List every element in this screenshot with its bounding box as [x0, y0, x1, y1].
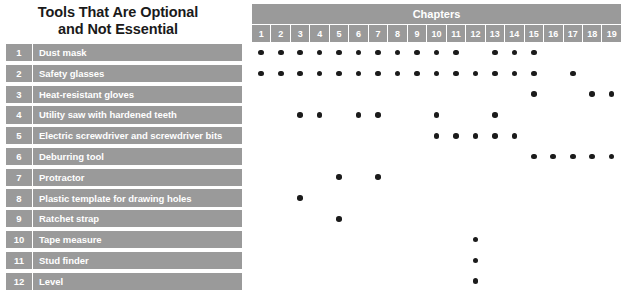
- dot-matrix-cell[interactable]: [505, 148, 523, 165]
- dot-matrix-cell[interactable]: [583, 273, 601, 290]
- dot-matrix-cell[interactable]: [330, 65, 348, 82]
- dot-matrix-cell[interactable]: [388, 44, 406, 61]
- dot-matrix-cell[interactable]: [271, 252, 289, 269]
- tool-row[interactable]: 3Heat-resistant gloves: [6, 86, 242, 103]
- dot-matrix-cell[interactable]: [369, 210, 387, 227]
- chapter-header-cell[interactable]: 12: [466, 25, 484, 42]
- dot-matrix-cell[interactable]: [388, 169, 406, 186]
- chapter-header-cell[interactable]: 14: [505, 25, 523, 42]
- dot-matrix-cell[interactable]: [349, 86, 367, 103]
- dot-matrix-cell[interactable]: [602, 169, 620, 186]
- tool-row[interactable]: 4Utility saw with hardened teeth: [6, 106, 242, 123]
- dot-matrix-cell[interactable]: [427, 231, 445, 248]
- dot-matrix-cell[interactable]: [486, 210, 504, 227]
- dot-matrix-cell[interactable]: [447, 106, 465, 123]
- tool-row[interactable]: 9Ratchet strap: [6, 210, 242, 227]
- dot-matrix-cell[interactable]: [408, 231, 426, 248]
- chapter-header-cell[interactable]: 11: [447, 25, 465, 42]
- dot-matrix-cell[interactable]: [544, 44, 562, 61]
- dot-matrix-cell[interactable]: [486, 86, 504, 103]
- dot-matrix-cell[interactable]: [388, 86, 406, 103]
- dot-matrix-cell[interactable]: [505, 231, 523, 248]
- dot-matrix-cell[interactable]: [447, 252, 465, 269]
- dot-matrix-cell[interactable]: [291, 86, 309, 103]
- dot-matrix-cell[interactable]: [466, 44, 484, 61]
- dot-matrix-cell[interactable]: [388, 148, 406, 165]
- dot-matrix-cell[interactable]: [486, 106, 504, 123]
- dot-matrix-cell[interactable]: [252, 189, 270, 206]
- dot-matrix-cell[interactable]: [369, 189, 387, 206]
- tool-row[interactable]: 2Safety glasses: [6, 65, 242, 82]
- dot-matrix-cell[interactable]: [505, 189, 523, 206]
- dot-matrix-cell[interactable]: [330, 127, 348, 144]
- dot-matrix-cell[interactable]: [271, 148, 289, 165]
- dot-matrix-cell[interactable]: [602, 273, 620, 290]
- dot-matrix-cell[interactable]: [252, 210, 270, 227]
- dot-matrix-cell[interactable]: [447, 86, 465, 103]
- dot-matrix-cell[interactable]: [564, 44, 582, 61]
- dot-matrix-cell[interactable]: [447, 65, 465, 82]
- dot-matrix-cell[interactable]: [447, 231, 465, 248]
- dot-matrix-cell[interactable]: [310, 44, 328, 61]
- dot-matrix-cell[interactable]: [330, 189, 348, 206]
- dot-matrix-cell[interactable]: [447, 148, 465, 165]
- dot-matrix-cell[interactable]: [447, 127, 465, 144]
- dot-matrix-cell[interactable]: [369, 44, 387, 61]
- dot-matrix-cell[interactable]: [466, 189, 484, 206]
- dot-matrix-cell[interactable]: [544, 86, 562, 103]
- dot-matrix-cell[interactable]: [408, 148, 426, 165]
- dot-matrix-cell[interactable]: [466, 65, 484, 82]
- dot-matrix-cell[interactable]: [330, 210, 348, 227]
- dot-matrix-cell[interactable]: [525, 44, 543, 61]
- dot-matrix-cell[interactable]: [252, 65, 270, 82]
- chapter-header-cell[interactable]: 13: [486, 25, 504, 42]
- dot-matrix-cell[interactable]: [252, 148, 270, 165]
- dot-matrix-cell[interactable]: [564, 127, 582, 144]
- dot-matrix-cell[interactable]: [349, 273, 367, 290]
- dot-matrix-cell[interactable]: [602, 86, 620, 103]
- dot-matrix-cell[interactable]: [486, 273, 504, 290]
- dot-matrix-cell[interactable]: [291, 169, 309, 186]
- dot-matrix-cell[interactable]: [466, 86, 484, 103]
- dot-matrix-cell[interactable]: [349, 210, 367, 227]
- dot-matrix-cell[interactable]: [427, 127, 445, 144]
- dot-matrix-cell[interactable]: [505, 169, 523, 186]
- dot-matrix-cell[interactable]: [408, 273, 426, 290]
- dot-matrix-cell[interactable]: [408, 65, 426, 82]
- dot-matrix-cell[interactable]: [310, 231, 328, 248]
- dot-matrix-cell[interactable]: [525, 210, 543, 227]
- dot-matrix-cell[interactable]: [544, 106, 562, 123]
- dot-matrix-cell[interactable]: [291, 127, 309, 144]
- dot-matrix-cell[interactable]: [388, 210, 406, 227]
- chapter-header-cell[interactable]: 6: [349, 25, 367, 42]
- dot-matrix-cell[interactable]: [486, 44, 504, 61]
- dot-matrix-cell[interactable]: [252, 44, 270, 61]
- dot-matrix-cell[interactable]: [466, 231, 484, 248]
- dot-matrix-cell[interactable]: [486, 189, 504, 206]
- dot-matrix-cell[interactable]: [525, 106, 543, 123]
- dot-matrix-cell[interactable]: [564, 189, 582, 206]
- chapter-header-cell[interactable]: 2: [271, 25, 289, 42]
- dot-matrix-cell[interactable]: [271, 106, 289, 123]
- dot-matrix-cell[interactable]: [330, 169, 348, 186]
- dot-matrix-cell[interactable]: [427, 44, 445, 61]
- dot-matrix-cell[interactable]: [427, 65, 445, 82]
- dot-matrix-cell[interactable]: [466, 169, 484, 186]
- dot-matrix-cell[interactable]: [427, 148, 445, 165]
- dot-matrix-cell[interactable]: [505, 127, 523, 144]
- dot-matrix-cell[interactable]: [564, 65, 582, 82]
- dot-matrix-cell[interactable]: [447, 169, 465, 186]
- dot-matrix-cell[interactable]: [349, 169, 367, 186]
- dot-matrix-cell[interactable]: [602, 148, 620, 165]
- dot-matrix-cell[interactable]: [252, 86, 270, 103]
- dot-matrix-cell[interactable]: [310, 189, 328, 206]
- dot-matrix-cell[interactable]: [271, 189, 289, 206]
- dot-matrix-cell[interactable]: [349, 106, 367, 123]
- dot-matrix-cell[interactable]: [330, 148, 348, 165]
- dot-matrix-cell[interactable]: [271, 231, 289, 248]
- dot-matrix-cell[interactable]: [330, 252, 348, 269]
- chapter-header-cell[interactable]: 15: [525, 25, 543, 42]
- dot-matrix-cell[interactable]: [349, 189, 367, 206]
- dot-matrix-cell[interactable]: [349, 231, 367, 248]
- dot-matrix-cell[interactable]: [466, 273, 484, 290]
